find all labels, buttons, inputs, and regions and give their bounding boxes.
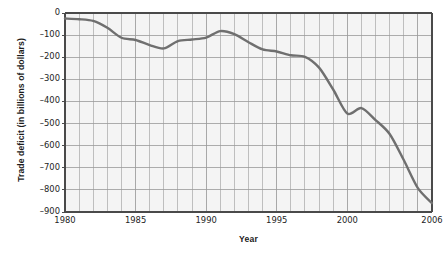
x-tick-label: 1995 — [247, 215, 307, 225]
x-tick-label: 2000 — [317, 215, 377, 225]
x-tick-label: 1985 — [106, 215, 166, 225]
x-tick-label: 1990 — [176, 215, 236, 225]
x-axis-tick-labels: 198019851990199520002006 — [0, 215, 446, 235]
x-tick-label: 2006 — [402, 215, 446, 225]
chart-figure: Trade deficit (in billions of dollars) 0… — [0, 0, 446, 255]
x-axis-title: Year — [65, 234, 432, 244]
x-tick-label: 1980 — [35, 215, 95, 225]
